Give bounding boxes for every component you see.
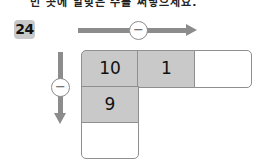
grid-cell-row2-col1: 9 [81,86,139,124]
minus-operator-horizontal: − [129,21,148,40]
answer-cell-horizontal[interactable] [194,50,252,88]
instruction-text-cutoff: 빈 곳에 알맞은 수를 써넣으세요. [30,0,198,9]
problem-number-badge: 24 [14,20,35,39]
grid-cell-row1-col2: 1 [137,50,196,88]
arrow-right-icon [186,24,197,36]
grid-cell-start: 10 [81,50,139,88]
answer-cell-vertical[interactable] [81,122,139,159]
arrow-down-icon [54,113,66,124]
minus-operator-vertical: − [51,78,70,97]
